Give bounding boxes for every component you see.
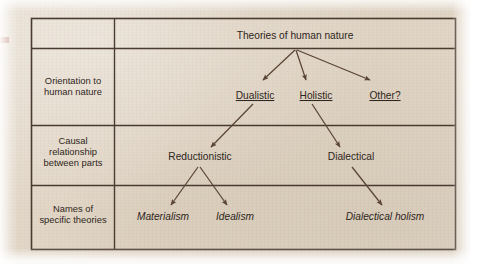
node-materialism: Materialism: [137, 211, 190, 222]
edge-root-to-other: [297, 50, 370, 80]
row-label-causal-line-3: between parts: [44, 157, 103, 168]
edge-root-to-dualistic: [263, 50, 295, 80]
row-label-names-line-1: Names of: [53, 203, 94, 214]
row-label-causal-relationship: Causal relationship between parts: [44, 135, 103, 168]
node-holistic: Holistic: [300, 90, 333, 101]
node-idealism: Idealism: [216, 211, 254, 222]
theories-of-human-nature-figure: Orientation to human nature Causal relat…: [0, 0, 486, 272]
node-dualistic: Dualistic: [236, 90, 275, 101]
node-dialectical-holism: Dialectical holism: [346, 211, 425, 222]
edge-root-to-holistic: [296, 50, 306, 80]
row-label-orientation-line-2: human nature: [44, 86, 102, 97]
row-label-causal-line-2: relationship: [49, 146, 97, 157]
node-dialectical: Dialectical: [328, 151, 374, 162]
node-reductionistic: Reductionistic: [168, 151, 231, 162]
row-label-causal-line-1: Causal: [58, 135, 87, 146]
row-label-orientation-line-1: Orientation to: [45, 75, 101, 86]
node-theories-of-human-nature: Theories of human nature: [237, 30, 354, 41]
row-label-names-line-2: specific theories: [39, 214, 107, 225]
tree-edges: [171, 50, 382, 205]
row-label-names-of-theories: Names of specific theories: [39, 203, 107, 225]
row-label-orientation: Orientation to human nature: [44, 75, 102, 97]
node-other: Other?: [369, 90, 400, 101]
